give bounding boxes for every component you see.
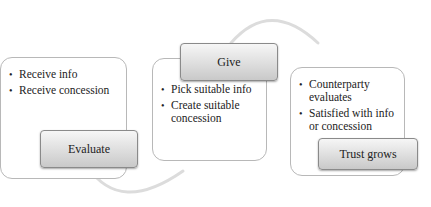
bullet-list-give: Pick suitable info Create suitable conce… — [159, 83, 260, 125]
bullet-item: Satisfied with info or concession — [297, 107, 398, 133]
bullet-item: Pick suitable info — [159, 83, 260, 96]
step-header-give: Give — [180, 43, 278, 81]
bullet-list-evaluate: Receive info Receive concession — [7, 68, 118, 97]
bullet-item: Receive concession — [7, 84, 118, 97]
bullet-item: Receive info — [7, 68, 118, 81]
bullet-item: Create suitable concession — [159, 99, 260, 125]
step-header-trust-grows: Trust grows — [318, 138, 418, 170]
bullet-item: Counterparty evaluates — [297, 78, 398, 104]
arc-give-to-trust — [231, 21, 318, 44]
bullet-list-trust-grows: Counterparty evaluates Satisfied with in… — [297, 78, 398, 133]
step-header-evaluate: Evaluate — [40, 130, 138, 168]
